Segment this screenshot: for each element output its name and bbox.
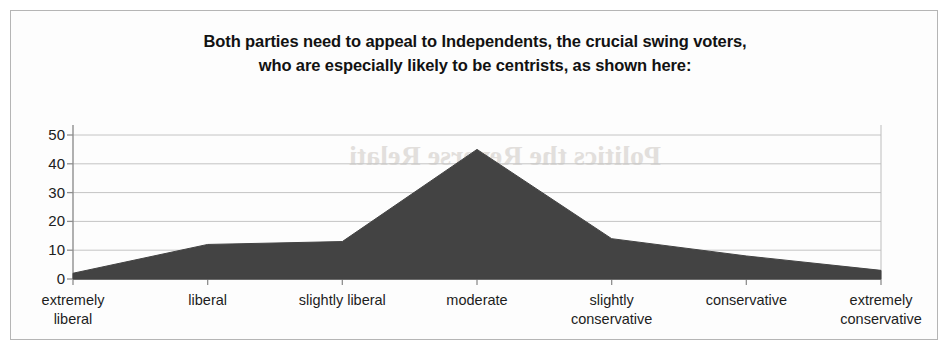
area-series-distribution <box>73 149 881 279</box>
x-tick-label-line-2: conservative <box>571 310 652 329</box>
y-tick-label: 40 <box>31 156 65 171</box>
x-tick-label-line-1: slightly liberal <box>299 292 386 308</box>
x-tick-label: conservative <box>706 291 787 310</box>
y-tick-label: 20 <box>31 213 65 228</box>
x-tick-label: slightly liberal <box>299 291 386 310</box>
chart-figure: Politics the Reverse Relati Both parties… <box>10 10 938 340</box>
x-tick-label: moderate <box>446 291 507 310</box>
x-tick-label-line-1: extremely <box>42 292 105 308</box>
y-tick-label: 50 <box>31 127 65 142</box>
y-tick-label: 30 <box>31 185 65 200</box>
x-tick-label: liberal <box>188 291 227 310</box>
x-tick-label-line-1: liberal <box>188 292 227 308</box>
x-tick-label: extremelyliberal <box>42 291 105 329</box>
y-tick-marks <box>67 135 73 279</box>
x-tick-label-line-2: liberal <box>42 310 105 329</box>
x-tick-label-line-1: slightly <box>589 292 633 308</box>
x-tick-label-line-2: conservative <box>840 310 921 329</box>
x-tick-label: slightlyconservative <box>571 291 652 329</box>
x-tick-label-line-1: extremely <box>850 292 913 308</box>
x-tick-labels: extremelyliberalliberalslightly liberalm… <box>11 283 939 341</box>
x-tick-label-line-1: conservative <box>706 292 787 308</box>
x-tick-label-line-1: moderate <box>446 292 507 308</box>
y-tick-label: 10 <box>31 242 65 257</box>
x-tick-label: extremelyconservative <box>840 291 921 329</box>
